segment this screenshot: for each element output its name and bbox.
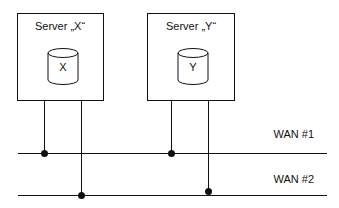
connections bbox=[45, 100, 209, 195]
wan-2-label: WAN #2 bbox=[273, 173, 314, 185]
junctions bbox=[41, 150, 212, 199]
server-y-title: Server „Y“ bbox=[166, 20, 216, 32]
network-diagram: Server „X“ X Server „Y“ Y WAN #1 WAN #2 bbox=[0, 0, 339, 208]
server-y: Server „Y“ Y bbox=[148, 14, 235, 101]
server-x: Server „X“ X bbox=[18, 14, 104, 101]
server-y-db-label: Y bbox=[189, 61, 197, 73]
wan-1-label: WAN #1 bbox=[273, 128, 314, 140]
server-x-title: Server „X“ bbox=[35, 20, 85, 32]
server-x-db-label: X bbox=[59, 61, 67, 73]
